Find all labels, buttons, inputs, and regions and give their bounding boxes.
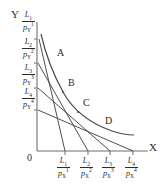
x-tick-label-3: L3 pX3 xyxy=(102,157,115,180)
origin-label: 0 xyxy=(27,153,32,163)
y-axis-label: Y xyxy=(11,9,19,20)
tangency-dot-b xyxy=(62,91,64,93)
budget-line-2 xyxy=(38,63,88,151)
tangency-dot-c xyxy=(77,111,79,113)
x-axis-label: X xyxy=(149,142,157,153)
point-label-c: C xyxy=(83,98,90,108)
y-tick-label-4: L4 pY4 xyxy=(22,88,35,111)
y-tick-label-3: L3 pY3 xyxy=(22,64,35,87)
x-tick-label-2: L2 pX2 xyxy=(80,157,93,180)
budget-line-3 xyxy=(38,88,110,151)
budget-line-4 xyxy=(38,110,133,151)
point-label-b: B xyxy=(68,78,75,88)
x-tick-label-1: L1 pX1 xyxy=(57,157,70,180)
economics-budget-line-figure: X Y 0 L1 pY1 L2 pY2 L3 pY3 L4 pY4 L1 pX1… xyxy=(0,0,164,187)
y-tick-label-1: L1 pY1 xyxy=(22,11,35,34)
x-tick-label-4: L4 pX4 xyxy=(125,157,138,180)
y-tick-label-2: L2 pY2 xyxy=(22,38,35,61)
point-label-d: D xyxy=(105,116,112,126)
point-label-a: A xyxy=(57,48,64,58)
price-consumption-curve xyxy=(41,34,134,135)
